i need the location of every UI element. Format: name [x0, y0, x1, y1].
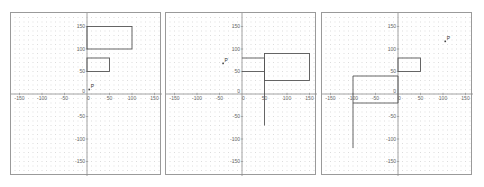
y-tick-label: 100 [388, 46, 397, 52]
y-tick-label: -150 [230, 158, 240, 164]
y-tick-label: 0 [82, 88, 85, 94]
x-tick-label: 100 [439, 95, 448, 101]
y-tick-label: 150 [77, 23, 86, 29]
y-tick-label: 150 [232, 23, 241, 29]
y-tick-label: -100 [75, 136, 85, 142]
x-tick-label: 100 [128, 95, 137, 101]
y-tick-label: 100 [77, 46, 86, 52]
x-tick-label: 150 [305, 95, 314, 101]
x-tick-label: 100 [283, 95, 292, 101]
y-tick-label: -50 [233, 113, 240, 119]
x-tick-label: 50 [418, 95, 424, 101]
y-tick-label: 0 [237, 88, 240, 94]
y-tick-label: 50 [390, 68, 396, 74]
x-tick-label: -100 [37, 95, 47, 101]
x-tick-label: 50 [107, 95, 113, 101]
rectangle-shape [87, 27, 132, 50]
x-tick-label: 0 [87, 95, 90, 101]
coordinate-plane-1: -150-150-100-100-50-50005050100100150150… [10, 12, 161, 175]
point-label: P [447, 35, 451, 41]
y-tick-label: 50 [79, 68, 85, 74]
y-tick-label: -100 [386, 136, 396, 142]
coordinate-plane-2: -150-150-100-100-50-50005050100100150150… [165, 12, 316, 175]
x-tick-label: 150 [461, 95, 470, 101]
point-label: P [91, 83, 95, 89]
coordinate-plane-3: -150-150-100-100-50-50005050100100150150… [321, 12, 472, 175]
y-tick-label: -50 [78, 113, 85, 119]
x-tick-label: -150 [325, 95, 335, 101]
x-tick-label: -150 [169, 95, 179, 101]
y-tick-label: 0 [393, 88, 396, 94]
y-tick-label: -150 [75, 158, 85, 164]
x-tick-label: -150 [14, 95, 24, 101]
y-tick-label: -50 [389, 113, 396, 119]
x-tick-label: 0 [242, 95, 245, 101]
x-tick-label: 150 [150, 95, 159, 101]
point-label: P [225, 57, 229, 63]
x-tick-label: -50 [61, 95, 68, 101]
y-tick-label: -150 [386, 158, 396, 164]
rectangle-shape [87, 58, 110, 72]
x-tick-label: -100 [192, 95, 202, 101]
rectangle-shape [398, 58, 421, 72]
x-tick-label: 0 [398, 95, 401, 101]
x-tick-label: -50 [216, 95, 223, 101]
y-tick-label: 50 [234, 68, 240, 74]
y-tick-label: 100 [232, 46, 241, 52]
x-tick-label: -50 [372, 95, 379, 101]
y-tick-label: -100 [230, 136, 240, 142]
y-tick-label: 150 [388, 23, 397, 29]
